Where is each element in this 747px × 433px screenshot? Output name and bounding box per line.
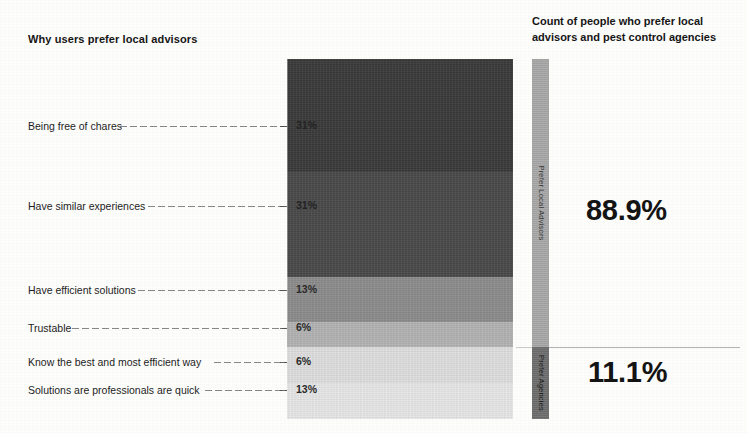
bar-inner-guideline [287,59,288,323]
secondary-bar-segment: Prefer Local Advisors [532,59,549,347]
leader-line [120,126,287,127]
axis-tick [280,328,287,329]
category-label: Know the best and most efficient way [28,355,201,369]
axis-tick [280,126,287,127]
secondary-chart-title: Count of people who prefer local advisor… [532,14,742,45]
secondary-chart-title-line1: Count of people who prefer local [532,14,742,30]
leader-line [148,206,287,207]
leader-line [72,328,287,329]
secondary-bar-segment-label: Prefer Local Advisors [536,165,545,240]
bar-segment-value: 13% [296,283,317,295]
bar-segment-value: 13% [296,383,317,395]
bar-segment [287,172,513,277]
axis-tick [280,290,287,291]
callout-prefer-agencies: 11.1% [588,356,667,389]
bar-segment-value: 31% [296,119,317,131]
category-label: Have efficient solutions [28,283,136,297]
secondary-stacked-bar: Prefer Local AdvisorsPrefer Agencies [532,59,549,419]
callout-prefer-local-advisors: 88.9% [586,194,667,227]
secondary-bar-segment: Prefer Agencies [532,347,549,419]
axis-tick [280,206,287,207]
category-label: Trustable [28,321,71,335]
leader-line [214,362,287,363]
callout-divider [549,347,740,348]
callout-divider-stub [516,347,533,348]
bar-segment-value: 6% [296,355,311,367]
secondary-chart-title-line2: advisors and pest control agencies [532,30,742,46]
category-label: Solutions are professionals are quick [28,383,200,397]
chart-canvas: Why users prefer local advisors Count of… [0,0,747,433]
bar-segment-value: 6% [296,321,311,333]
category-row: Trustable [28,321,747,335]
page-title: Why users prefer local advisors [28,33,197,45]
category-row: Being free of chares [28,119,747,133]
axis-tick [280,390,287,391]
axis-tick [280,362,287,363]
category-label: Have similar experiences [28,199,145,213]
bar-segment-value: 31% [296,199,317,211]
leader-line [138,290,287,291]
leader-line [205,390,287,391]
secondary-bar-segment-label: Prefer Agencies [536,355,545,411]
bar-segment [287,59,513,172]
category-row: Have efficient solutions [28,283,747,297]
category-label: Being free of chares [28,119,122,133]
